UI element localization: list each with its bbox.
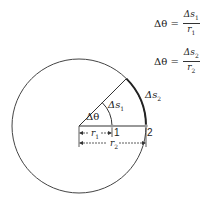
- arc-s2-label: Δs2: [145, 90, 161, 104]
- point-1-label: 1: [114, 128, 120, 138]
- r1-label: r1: [91, 128, 99, 142]
- angle-label: Δθ: [86, 112, 99, 122]
- equation-1-fraction: Δs1 r1: [183, 9, 200, 38]
- arc-s1-label: Δs1: [108, 100, 124, 114]
- equation-1: Δθ = Δs1 r1: [154, 9, 200, 38]
- equation-2: Δθ = Δs2 r2: [154, 47, 200, 76]
- equation-2-lhs: Δθ =: [154, 56, 179, 67]
- equation-1-lhs: Δθ =: [154, 18, 179, 29]
- point-2-label: 2: [147, 128, 153, 138]
- r2-label: r2: [110, 138, 118, 152]
- arc-s2: [126, 79, 146, 126]
- equation-2-fraction: Δs2 r2: [183, 47, 200, 76]
